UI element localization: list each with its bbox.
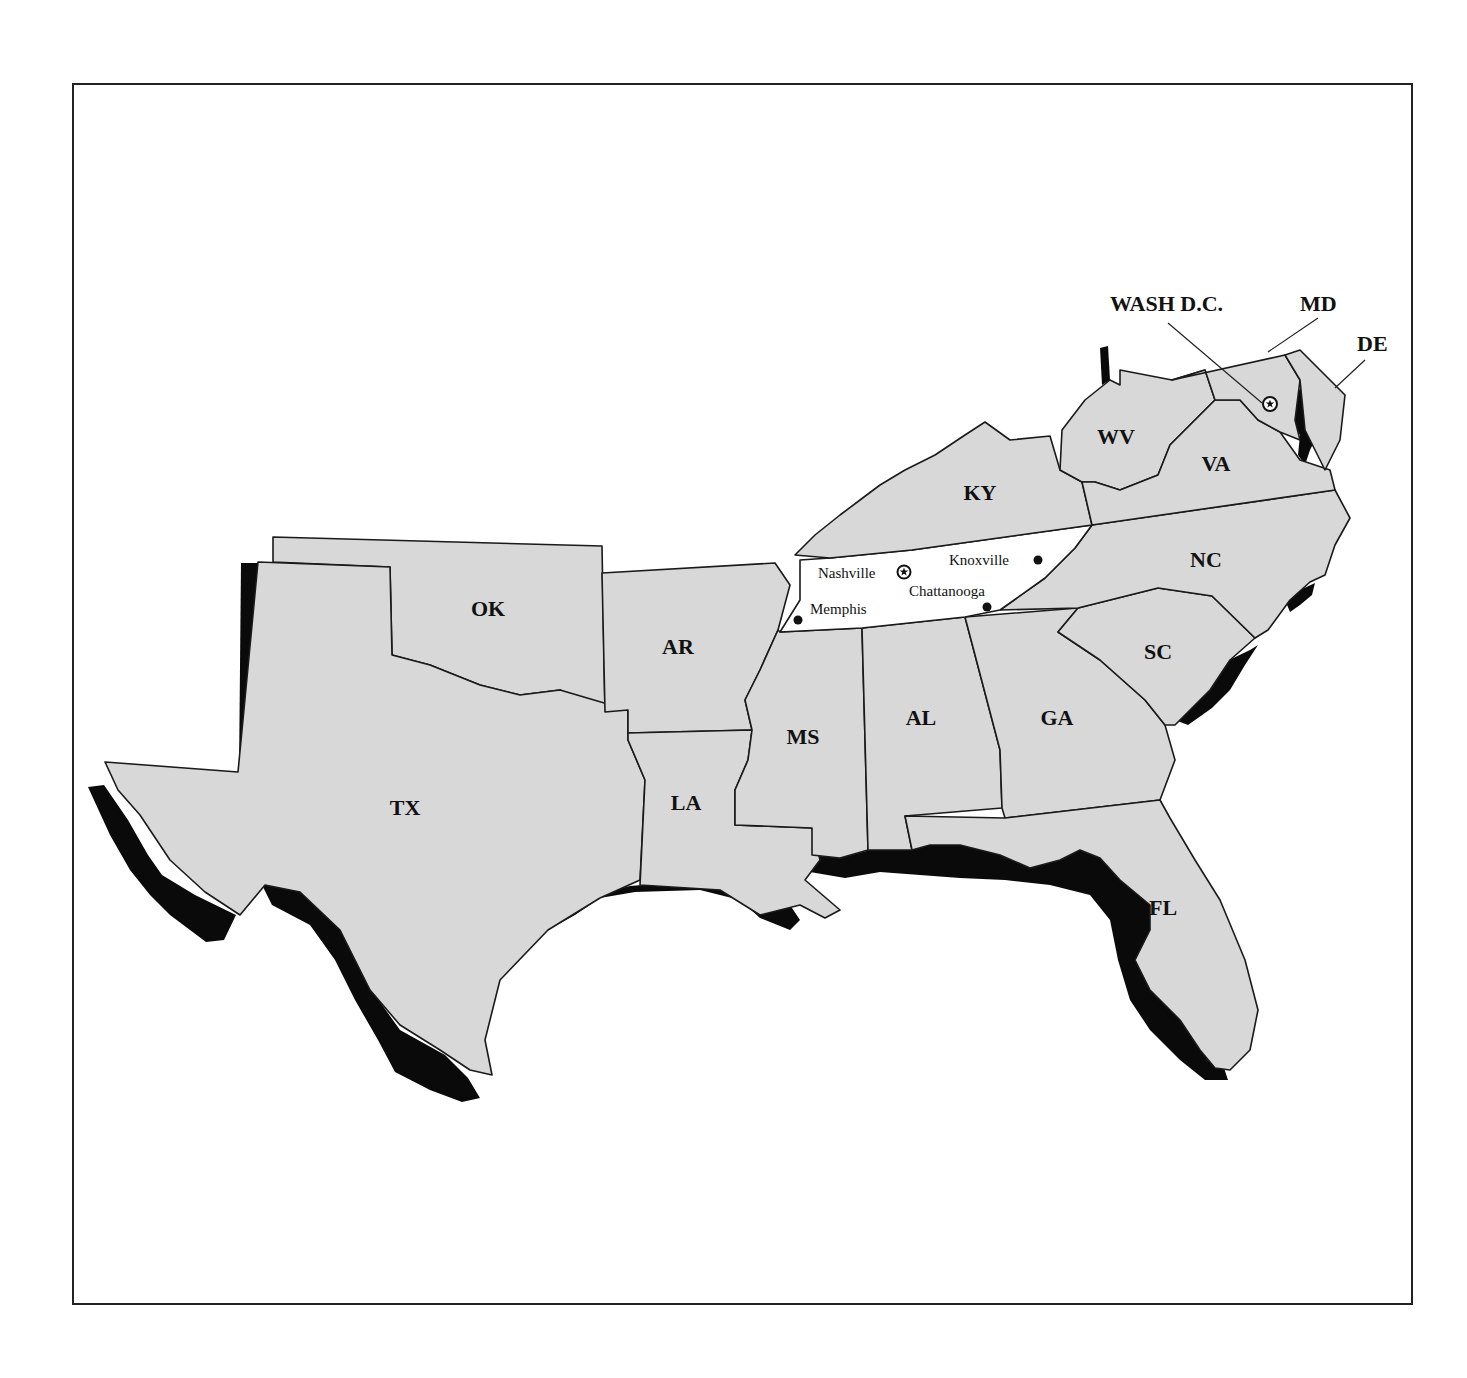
- label-la: LA: [671, 790, 702, 815]
- label-nashville: Nashville: [818, 565, 876, 581]
- state-fl: [905, 800, 1258, 1070]
- memphis-dot-icon: [794, 616, 803, 625]
- label-ar: AR: [662, 634, 695, 659]
- label-ga: GA: [1041, 705, 1074, 730]
- label-chattanooga: Chattanooga: [909, 583, 985, 599]
- dc-star-icon: [1263, 397, 1277, 411]
- label-memphis: Memphis: [810, 601, 867, 617]
- label-fl: FL: [1149, 895, 1177, 920]
- label-knoxville: Knoxville: [949, 552, 1009, 568]
- label-wash-dc: WASH D.C.: [1110, 291, 1223, 316]
- label-nc: NC: [1190, 547, 1222, 572]
- label-sc: SC: [1144, 639, 1172, 664]
- label-al: AL: [906, 705, 937, 730]
- label-va: VA: [1202, 451, 1231, 476]
- label-ok: OK: [471, 596, 505, 621]
- chattanooga-dot-icon: [983, 603, 992, 612]
- callout-labels: WASH D.C. MD DE: [1110, 291, 1388, 356]
- label-wv: WV: [1097, 424, 1135, 449]
- label-ky: KY: [964, 480, 997, 505]
- nashville-star-icon: [898, 566, 911, 579]
- label-de: DE: [1357, 331, 1388, 356]
- label-md: MD: [1300, 291, 1337, 316]
- state-shapes: [105, 350, 1350, 1075]
- southern-states-map: TX OK AR LA MS AL GA FL SC NC KY WV VA W…: [0, 0, 1467, 1378]
- label-ms: MS: [787, 724, 820, 749]
- knoxville-dot-icon: [1034, 556, 1043, 565]
- label-tx: TX: [390, 795, 421, 820]
